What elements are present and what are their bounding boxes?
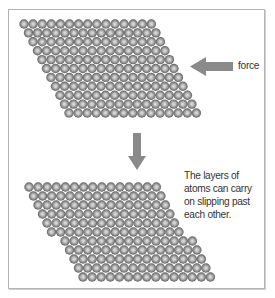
- atom: [42, 46, 51, 55]
- atom: [28, 37, 37, 46]
- atom: [119, 37, 128, 46]
- atom: [170, 236, 179, 245]
- atom: [160, 46, 169, 55]
- atom: [74, 37, 83, 46]
- atom: [92, 73, 101, 82]
- atom: [101, 227, 110, 236]
- atom: [129, 245, 138, 254]
- atom: [165, 91, 174, 100]
- atom: [137, 108, 146, 117]
- atom: [161, 218, 170, 227]
- atom: [174, 263, 183, 272]
- atom: [128, 73, 137, 82]
- atom: [92, 227, 101, 236]
- atom: [96, 99, 105, 108]
- atom: [65, 19, 74, 28]
- atom: [165, 55, 174, 64]
- atom: [74, 263, 83, 272]
- atom: [188, 272, 197, 281]
- atom: [74, 245, 83, 254]
- atom: [51, 82, 60, 91]
- atom: [188, 236, 197, 245]
- atom: [119, 73, 128, 82]
- atom: [78, 64, 87, 73]
- atom: [105, 99, 114, 108]
- atom: [133, 64, 142, 73]
- atom: [102, 209, 111, 218]
- atom: [119, 245, 128, 254]
- atom: [47, 191, 56, 200]
- atom: [88, 28, 97, 37]
- atom: [102, 191, 111, 200]
- atom: [187, 99, 196, 108]
- atom: [188, 254, 197, 263]
- atom: [106, 236, 115, 245]
- atom: [60, 28, 69, 37]
- atom: [37, 55, 46, 64]
- atom: [142, 254, 151, 263]
- atom: [115, 28, 124, 37]
- atom: [178, 272, 187, 281]
- force-arrow-icon: [190, 57, 233, 76]
- atom: [138, 191, 147, 200]
- atom: [134, 182, 143, 191]
- atom: [55, 73, 64, 82]
- atom: [174, 245, 183, 254]
- atom: [124, 218, 133, 227]
- atom: [65, 37, 74, 46]
- atom: [138, 19, 147, 28]
- atom: [156, 209, 165, 218]
- atom: [146, 108, 155, 117]
- atom: [65, 227, 74, 236]
- atom: [78, 272, 87, 281]
- atom: [138, 227, 147, 236]
- atom: [65, 245, 74, 254]
- caption-line: The layers of: [184, 169, 258, 182]
- atom: [28, 19, 37, 28]
- atom: [33, 182, 42, 191]
- atom: [92, 245, 101, 254]
- atom: [51, 46, 60, 55]
- atom: [111, 191, 120, 200]
- atom: [97, 218, 106, 227]
- atom: [115, 64, 124, 73]
- atom: [179, 236, 188, 245]
- atom: [129, 191, 138, 200]
- atom: [60, 46, 69, 55]
- atom: [110, 263, 119, 272]
- atom: [133, 99, 142, 108]
- atom: [160, 236, 169, 245]
- atom: [165, 209, 174, 218]
- atom: [106, 46, 115, 55]
- atom: [156, 263, 165, 272]
- atom: [174, 108, 183, 117]
- atom: [147, 55, 156, 64]
- atom: [120, 209, 129, 218]
- atom: [146, 91, 155, 100]
- atom: [101, 91, 110, 100]
- atom: [133, 254, 142, 263]
- atom: [69, 46, 78, 55]
- atom: [133, 46, 142, 55]
- atom: [78, 28, 87, 37]
- atom: [83, 227, 92, 236]
- atom: [47, 227, 56, 236]
- atom: [70, 182, 79, 191]
- atom: [119, 263, 128, 272]
- atom: [137, 55, 146, 64]
- atom: [83, 191, 92, 200]
- atom: [151, 82, 160, 91]
- atom: [74, 227, 83, 236]
- atom: [74, 55, 83, 64]
- atom: [83, 263, 92, 272]
- atom: [87, 64, 96, 73]
- atom: [110, 19, 119, 28]
- atom: [106, 218, 115, 227]
- atom: [69, 64, 78, 73]
- atom: [124, 64, 133, 73]
- atom: [183, 108, 192, 117]
- atom: [74, 191, 83, 200]
- atom: [47, 19, 56, 28]
- atom: [24, 182, 33, 191]
- atom: [174, 91, 183, 100]
